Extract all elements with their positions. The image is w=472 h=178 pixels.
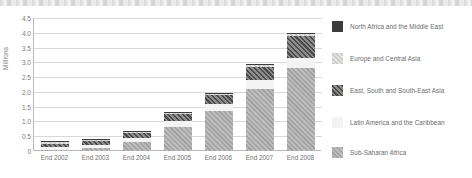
x-axis-tick-label: End 2006 (199, 154, 239, 161)
gray-hatch-swatch (332, 147, 343, 158)
bar-segment[interactable] (164, 127, 192, 151)
y-axis-tick-label: 3.5 (3, 44, 31, 51)
y-axis-tick-label: 4.5 (3, 15, 31, 22)
stacked-bar[interactable] (82, 139, 110, 151)
bar-segment[interactable] (205, 111, 233, 151)
bar-segment[interactable] (287, 58, 315, 68)
bar-segment[interactable] (287, 68, 315, 151)
chart-legend: North Africa and the Middle EastEurope a… (332, 14, 472, 164)
x-axis-tick-label: End 2007 (240, 154, 280, 161)
bar-segment[interactable] (246, 80, 274, 89)
solid-dark-swatch (332, 21, 343, 32)
y-axis-tick-label: 2.0 (3, 88, 31, 95)
bar-segment[interactable] (205, 104, 233, 111)
bar-segment[interactable] (287, 36, 315, 58)
x-axis-tick-label: End 2008 (281, 154, 321, 161)
y-axis-tick-label: 4.0 (3, 29, 31, 36)
bar-column[interactable] (123, 18, 151, 151)
dark-hatch-swatch (332, 85, 343, 96)
stacked-bar[interactable] (41, 141, 69, 151)
legend-item-label: East, South and South-East Asia (350, 87, 444, 94)
stacked-bar[interactable] (246, 64, 274, 151)
legend-item-label: Europe and Central Asia (350, 55, 420, 62)
bar-column[interactable] (287, 18, 315, 151)
legend-item-label: Latin America and the Caribbean (350, 119, 445, 126)
x-axis-tick-label: End 2003 (76, 154, 116, 161)
x-axis-tick-labels: End 2002End 2003End 2004End 2005End 2006… (34, 154, 321, 161)
stacked-bar[interactable] (205, 93, 233, 152)
stacked-bar[interactable] (287, 33, 315, 151)
bar-column[interactable] (164, 18, 192, 151)
x-axis-tick-label: End 2005 (158, 154, 198, 161)
x-axis-tick-label: End 2002 (35, 154, 75, 161)
bar-column[interactable] (205, 18, 233, 151)
bar-column[interactable] (82, 18, 110, 151)
bar-segment[interactable] (82, 148, 110, 151)
legend-item[interactable]: East, South and South-East Asia (332, 84, 444, 96)
y-axis-tick-label: 0.5 (3, 133, 31, 140)
bar-segment[interactable] (246, 67, 274, 80)
y-axis-tick-label: 3.0 (3, 59, 31, 66)
y-axis-tick-label: 1.5 (3, 103, 31, 110)
bar-segment[interactable] (41, 150, 69, 151)
light-hatch-swatch (332, 53, 343, 64)
bar-segment[interactable] (123, 142, 151, 151)
white-swatch (332, 117, 343, 128)
stacked-bar-chart: Millions 4.54.03.53.02.52.01.51.00.50 En… (0, 8, 330, 178)
stacked-bar[interactable] (123, 131, 151, 151)
bar-segment[interactable] (164, 114, 192, 121)
bar-column[interactable] (41, 18, 69, 151)
legend-item[interactable]: Latin America and the Caribbean (332, 116, 445, 128)
legend-item[interactable]: Europe and Central Asia (332, 52, 420, 64)
y-axis-tick-label: 1.0 (3, 118, 31, 125)
bar-segment[interactable] (205, 95, 233, 104)
y-axis-tick-labels: 4.54.03.53.02.52.01.51.00.50 (0, 18, 31, 151)
legend-item-label: North Africa and the Middle East (350, 23, 443, 30)
bar-series-group (34, 18, 321, 151)
y-axis-tick-label: 0 (3, 148, 31, 155)
y-axis-tick-label: 2.5 (3, 74, 31, 81)
legend-item[interactable]: Sub-Saharan Africa (332, 146, 406, 158)
bar-segment[interactable] (246, 89, 274, 151)
legend-item[interactable]: North Africa and the Middle East (332, 20, 443, 32)
bar-column[interactable] (246, 18, 274, 151)
stacked-bar[interactable] (164, 112, 192, 151)
x-axis-tick-label: End 2004 (117, 154, 157, 161)
scanned-page-edge (0, 0, 472, 6)
legend-item-label: Sub-Saharan Africa (350, 149, 406, 156)
